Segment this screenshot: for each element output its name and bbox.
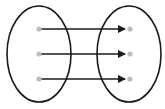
mapping-diagram xyxy=(0,0,165,109)
codomain-element-dot xyxy=(127,26,132,31)
domain-element-dot xyxy=(36,26,41,31)
domain-element-dot xyxy=(36,51,41,56)
domain-element-dot xyxy=(36,76,41,81)
codomain-element-dot xyxy=(127,51,132,56)
codomain-element-dot xyxy=(127,76,132,81)
